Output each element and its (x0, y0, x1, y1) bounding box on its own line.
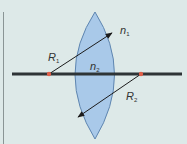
center-of-curvature-1 (47, 72, 51, 76)
label-n1: n1 (120, 25, 129, 37)
label-r1: R1 (48, 52, 59, 64)
label-n2: n2 (90, 61, 99, 73)
label-r2: R2 (126, 91, 137, 103)
center-of-curvature-2 (139, 72, 143, 76)
